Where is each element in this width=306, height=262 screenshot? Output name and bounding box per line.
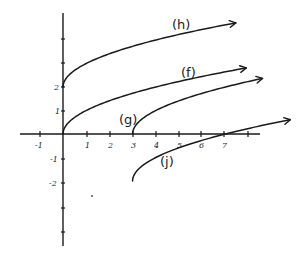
x-tick-label: 4 [153, 141, 159, 150]
y-tick-label: -1 [50, 155, 58, 164]
x-tick-label: 7 [222, 141, 228, 150]
curve-label-g: (g) [119, 112, 137, 127]
x-tick-label: 1 [85, 141, 90, 150]
function-graph: -1 1 2 3 4 5 6 7 2 1 -1 -2 (h) (f) (g) (… [0, 0, 306, 262]
curve-j [133, 120, 291, 181]
curve-g [133, 78, 263, 134]
x-tick-label: 3 [131, 141, 136, 150]
x-tick-label: -1 [35, 141, 43, 150]
curve-h [63, 23, 236, 87]
y-tick-label: 2 [53, 83, 59, 92]
curve-label-j: (j) [160, 154, 174, 169]
x-tick-label: 2 [107, 141, 113, 150]
x-tick-label: 6 [199, 141, 204, 150]
curve-label-f: (f) [181, 65, 196, 80]
curve-label-h: (h) [172, 17, 190, 32]
curve-f [63, 68, 246, 134]
y-tick-label: 1 [55, 107, 60, 116]
stray-mark [91, 195, 93, 197]
y-tick-label: -2 [49, 179, 57, 188]
